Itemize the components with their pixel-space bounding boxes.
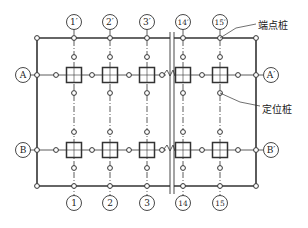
locating-pile <box>236 73 241 78</box>
locating-pile <box>127 73 132 78</box>
locating-pile <box>145 91 150 96</box>
axis-label-1: 1 <box>71 198 77 208</box>
axis-label-B: B <box>20 145 27 155</box>
locating-pile <box>72 166 77 171</box>
locating-pile <box>200 73 205 78</box>
axis-label-1p: 1′ <box>70 17 78 27</box>
locating-pile <box>108 55 113 60</box>
pile-layout-diagram: ABA′B′1′2′3′14′15′1231415 端点桩 定位桩 <box>0 0 308 228</box>
end-pile <box>35 73 40 78</box>
locating-pile <box>181 130 186 135</box>
locating-pile <box>218 166 223 171</box>
end-pile <box>181 36 186 41</box>
axis-label-15: 15 <box>215 199 225 208</box>
locating-pile <box>145 130 150 135</box>
end-pile <box>254 148 259 153</box>
corner-pile <box>35 184 40 189</box>
locating-pile <box>72 130 77 135</box>
locating-pile <box>90 148 95 153</box>
locating-pile <box>218 55 223 60</box>
locating-pile <box>108 166 113 171</box>
locating-pile <box>236 148 241 153</box>
locating-pile <box>200 148 205 153</box>
end-pile <box>181 184 186 189</box>
locating-pile <box>145 166 150 171</box>
locating-pile <box>90 73 95 78</box>
locating-pile <box>72 91 77 96</box>
axis-label-2: 2 <box>107 198 113 208</box>
end-pile <box>72 36 77 41</box>
axis-label-A: A <box>19 70 27 80</box>
axis-label-3: 3 <box>144 198 150 208</box>
axis-label-14: 14 <box>178 199 188 208</box>
axis-label-14p: 14′ <box>177 18 189 27</box>
locating-pile <box>181 91 186 96</box>
axis-label-Ap: A′ <box>266 70 276 80</box>
end-pile <box>254 73 259 78</box>
end-pile <box>145 184 150 189</box>
end-pile <box>72 184 77 189</box>
locating-pile-label: 定位桩 <box>262 101 292 116</box>
locating-pile-leader <box>220 93 260 106</box>
axis-label-2p: 2′ <box>106 17 114 27</box>
corner-pile <box>254 184 259 189</box>
end-pile <box>108 184 113 189</box>
axis-label-15p: 15′ <box>214 18 226 27</box>
locating-pile <box>145 55 150 60</box>
end-pile <box>35 148 40 153</box>
locating-pile <box>181 55 186 60</box>
corner-pile <box>254 36 259 41</box>
locating-pile <box>160 73 165 78</box>
locating-pile <box>127 148 132 153</box>
end-pile <box>218 184 223 189</box>
locating-pile <box>54 148 59 153</box>
end-pile-label: 端点桩 <box>258 17 288 32</box>
locating-pile <box>108 130 113 135</box>
axis-label-3p: 3′ <box>143 17 151 27</box>
locating-pile <box>72 55 77 60</box>
end-pile <box>145 36 150 41</box>
locating-pile <box>108 91 113 96</box>
end-pile <box>108 36 113 41</box>
locating-pile <box>160 148 165 153</box>
locating-pile <box>181 166 186 171</box>
locating-pile <box>218 130 223 135</box>
locating-pile <box>54 73 59 78</box>
corner-pile <box>35 36 40 41</box>
axis-label-Bp: B′ <box>267 145 276 155</box>
